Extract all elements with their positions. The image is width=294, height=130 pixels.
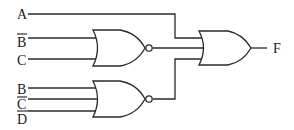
input-label-b: B	[17, 82, 26, 97]
label-text: D	[17, 112, 27, 127]
input-label-c: C	[17, 53, 26, 68]
input-label-d-bar: D	[17, 111, 28, 127]
input-label-a: A	[17, 7, 28, 22]
nor-gate-2	[93, 81, 152, 117]
logic-circuit-diagram: A B C B C D F	[0, 0, 294, 130]
input-label-c-bar: C	[17, 97, 27, 112]
or-gate-output	[199, 31, 251, 65]
input-label-b-bar: B	[17, 34, 27, 50]
label-text: B	[17, 35, 26, 50]
output-label-f: F	[273, 41, 281, 56]
nor-gate-1	[93, 30, 152, 66]
inversion-bubble	[146, 96, 152, 102]
wire-nor2-out	[153, 59, 203, 99]
inversion-bubble	[146, 45, 152, 51]
label-text: C	[17, 97, 26, 112]
